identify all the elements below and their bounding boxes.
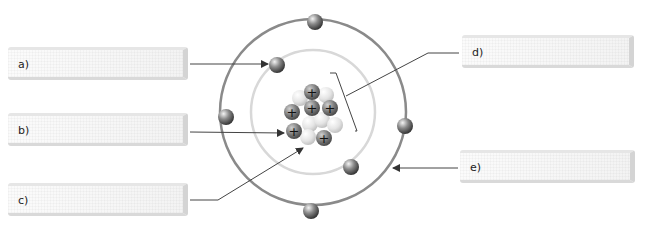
neutron	[300, 129, 316, 145]
svg-text:+: +	[325, 101, 336, 116]
svg-text:+: +	[319, 131, 330, 146]
proton: +	[304, 100, 320, 116]
electron	[269, 57, 285, 73]
proton: +	[322, 100, 338, 116]
pointer-c	[190, 148, 303, 200]
proton: +	[304, 84, 320, 100]
pointer-b	[190, 132, 284, 133]
proton: +	[286, 123, 302, 139]
proton: +	[284, 104, 300, 120]
atom-diagram: + + + + + +	[0, 0, 650, 231]
svg-text:+: +	[307, 101, 318, 116]
svg-text:+: +	[287, 105, 298, 120]
svg-text:+: +	[307, 85, 318, 100]
electron	[218, 109, 234, 125]
electron	[303, 203, 319, 219]
nucleus: + + + + + +	[284, 84, 343, 146]
electron	[397, 118, 413, 134]
electron	[307, 14, 323, 30]
proton: +	[316, 130, 332, 146]
electron	[343, 159, 359, 175]
svg-text:+: +	[289, 124, 300, 139]
